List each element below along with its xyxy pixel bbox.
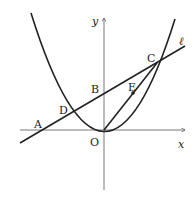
line-l [20, 46, 185, 143]
x-axis-label: x [178, 138, 185, 151]
point-E-label: E [128, 81, 136, 94]
parabola [31, 13, 175, 132]
point-C-label: C [147, 52, 155, 65]
origin-label: O [90, 136, 99, 149]
line-l-label: ℓ [179, 35, 184, 48]
point-D-label: D [59, 104, 68, 117]
segment-OC [104, 63, 157, 130]
y-axis-label: y [91, 15, 99, 28]
point-B-label: B [91, 83, 99, 96]
point-A-label: A [33, 118, 43, 131]
diagram-canvas: y x O ℓ A B C D E [0, 0, 195, 197]
